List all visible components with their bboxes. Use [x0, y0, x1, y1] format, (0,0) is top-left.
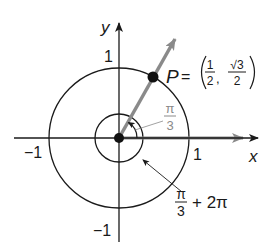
angle-big-denominator: 3: [177, 203, 185, 219]
tick-y-pos: 1: [104, 48, 113, 65]
angle-small-denominator: 3: [166, 118, 173, 133]
angle-big-numerator: π: [176, 186, 186, 202]
tick-y-neg: −1: [93, 222, 111, 239]
origin-dot: [114, 133, 124, 143]
angle-big-suffix: + 2π: [192, 193, 228, 212]
p-y-denominator: 2: [234, 74, 241, 88]
right-paren: [250, 56, 255, 89]
unit-circle-diagram: y x 1 −1 −1 1 P = 1 2 , √3 2 π 3 π 3 + 2…: [0, 0, 267, 242]
p-y-numerator: √3: [230, 58, 244, 72]
point-p-dot: [148, 72, 159, 83]
p-x-denominator: 2: [207, 74, 214, 88]
angle-arc-pi-over-3: [129, 123, 138, 139]
point-p-label: P: [166, 66, 179, 87]
angle-small-numerator: π: [166, 101, 175, 116]
y-axis-label: y: [100, 18, 111, 37]
p-comma: ,: [216, 71, 220, 86]
p-x-numerator: 1: [207, 58, 214, 72]
tick-x-pos: 1: [193, 146, 202, 163]
point-p-equals: =: [181, 68, 190, 85]
x-axis-label: x: [248, 147, 258, 166]
tick-x-neg: −1: [24, 144, 42, 161]
